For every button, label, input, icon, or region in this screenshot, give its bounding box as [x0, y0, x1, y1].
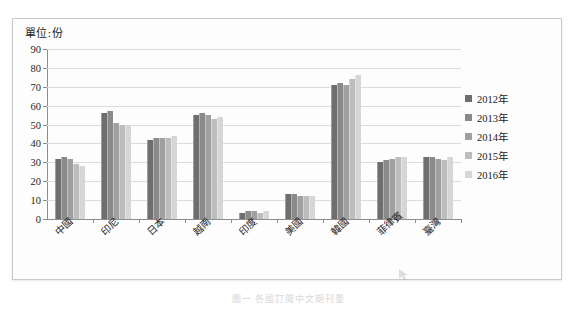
bar[interactable] — [171, 136, 177, 219]
y-axis-tick-label: 10 — [31, 195, 42, 206]
legend-label: 2015年 — [477, 148, 508, 163]
bar[interactable] — [355, 75, 361, 219]
legend-item[interactable]: 2015年 — [465, 146, 553, 165]
y-axis-tick-label: 40 — [31, 138, 42, 149]
legend-item[interactable]: 2012年 — [465, 89, 553, 108]
legend: 2012年2013年2014年2015年2016年 — [465, 89, 553, 184]
x-axis-tick-mark — [415, 219, 416, 223]
x-axis-tick-mark — [93, 219, 94, 223]
legend-item[interactable]: 2013年 — [465, 108, 553, 127]
bar[interactable] — [401, 157, 407, 219]
legend-swatch-icon — [465, 95, 472, 102]
bar[interactable] — [79, 166, 85, 219]
bar-group — [239, 49, 269, 219]
bar-group — [55, 49, 85, 219]
screenshot-root: 單位:份 0102030405060708090 中國印尼日本越南印度美國韓國菲… — [0, 0, 577, 311]
y-axis-tick-label: 80 — [31, 62, 42, 73]
bar-group — [377, 49, 407, 219]
legend-label: 2016年 — [477, 167, 508, 182]
bar-groups — [47, 49, 461, 219]
bar[interactable] — [263, 211, 269, 219]
cursor-artifact-icon — [398, 268, 412, 280]
legend-label: 2012年 — [477, 91, 508, 106]
bar[interactable] — [125, 125, 131, 219]
legend-item[interactable]: 2016年 — [465, 165, 553, 184]
legend-label: 2013年 — [477, 110, 508, 125]
bar-group — [193, 49, 223, 219]
y-axis-tick-label: 20 — [31, 176, 42, 187]
bar-group — [423, 49, 453, 219]
legend-item[interactable]: 2014年 — [465, 127, 553, 146]
chart-frame: 單位:份 0102030405060708090 中國印尼日本越南印度美國韓國菲… — [12, 18, 562, 280]
bar-group — [285, 49, 315, 219]
y-axis-tick-label: 30 — [31, 157, 42, 168]
plot-area — [47, 49, 461, 219]
x-axis-tick-mark — [323, 219, 324, 223]
figure-caption: 圖一 各國訂閱中文期刊量 — [0, 292, 577, 305]
x-axis-tick-mark — [185, 219, 186, 223]
bar-group — [101, 49, 131, 219]
bar-group — [147, 49, 177, 219]
legend-swatch-icon — [465, 133, 472, 140]
bar[interactable] — [309, 196, 315, 219]
legend-label: 2014年 — [477, 129, 508, 144]
y-axis: 0102030405060708090 — [13, 49, 47, 219]
legend-swatch-icon — [465, 114, 472, 121]
x-axis-tick-mark — [369, 219, 370, 223]
x-axis-tick-mark — [277, 219, 278, 223]
bar[interactable] — [217, 117, 223, 219]
y-axis-tick-label: 0 — [36, 214, 41, 225]
y-axis-tick-label: 90 — [31, 44, 42, 55]
unit-label: 單位:份 — [25, 24, 63, 40]
y-axis-tick-label: 50 — [31, 119, 42, 130]
x-axis-tick-mark — [461, 219, 462, 223]
bar[interactable] — [447, 157, 453, 219]
y-axis-tick-label: 60 — [31, 100, 42, 111]
x-axis-tick-mark — [231, 219, 232, 223]
legend-swatch-icon — [465, 152, 472, 159]
legend-swatch-icon — [465, 171, 472, 178]
x-axis-tick-mark — [139, 219, 140, 223]
bar-group — [331, 49, 361, 219]
y-axis-tick-label: 70 — [31, 81, 42, 92]
